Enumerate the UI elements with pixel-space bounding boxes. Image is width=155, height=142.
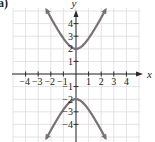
hyperbola-chart: −4−3−2−112344321−1−2−3−4xy [0, 0, 155, 142]
svg-text:1: 1 [68, 56, 73, 67]
svg-text:2: 2 [99, 76, 104, 87]
tick-labels: −4−3−2−112344321−1−2−3−4xy [19, 0, 152, 130]
svg-text:−4: −4 [62, 119, 73, 130]
svg-text:4: 4 [124, 76, 129, 87]
svg-text:−2: −2 [62, 94, 73, 105]
svg-text:2: 2 [68, 43, 73, 54]
svg-text:3: 3 [68, 31, 73, 42]
svg-text:1: 1 [86, 76, 91, 87]
svg-text:x: x [146, 68, 152, 80]
svg-text:3: 3 [111, 76, 116, 87]
svg-text:−4: −4 [19, 76, 30, 87]
svg-text:−1: −1 [62, 81, 73, 92]
svg-text:y: y [71, 0, 77, 9]
svg-text:−3: −3 [62, 106, 73, 117]
svg-text:4: 4 [68, 18, 73, 29]
svg-text:−3: −3 [32, 76, 43, 87]
svg-text:−2: −2 [44, 76, 55, 87]
